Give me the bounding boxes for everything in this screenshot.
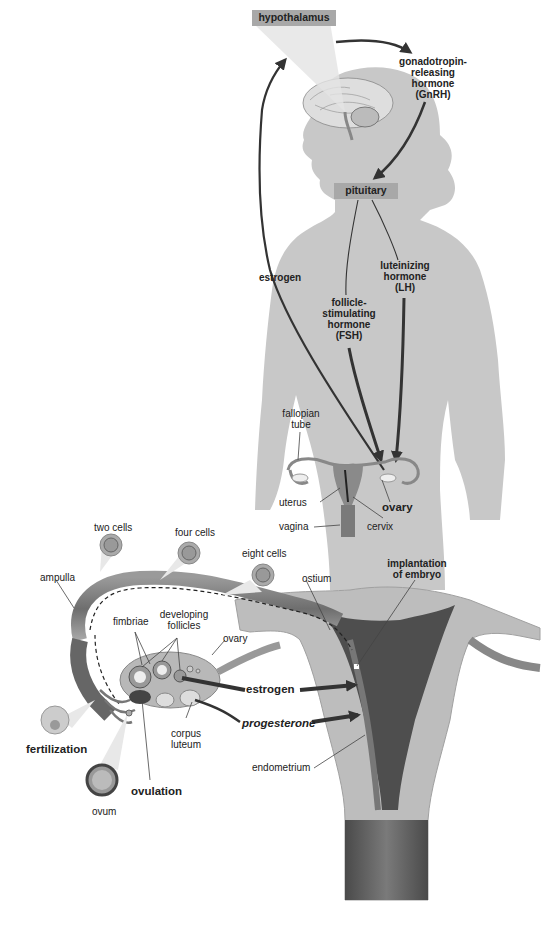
lh-label: luteinizing hormone (LH) xyxy=(370,260,440,293)
gnrh-label: gonadotropin- releasing hormone (GnRH) xyxy=(388,56,478,100)
hypothalamus-box: hypothalamus xyxy=(252,10,336,26)
four-cells-label: four cells xyxy=(175,527,215,538)
fimbriae-label: fimbriae xyxy=(113,616,149,627)
two-cells-label: two cells xyxy=(94,522,132,533)
corpus-luteum-label: corpus luteum xyxy=(166,728,206,750)
ovulation-label: ovulation xyxy=(131,786,182,797)
implantation-label: implantation of embryo xyxy=(380,558,454,580)
ovum-label: ovum xyxy=(92,806,116,817)
estrogen-top-label: estrogen xyxy=(259,272,301,283)
estrogen-bottom-label: estrogen xyxy=(246,684,295,695)
ovary-small-label: ovary xyxy=(382,502,413,513)
uterus-label: uterus xyxy=(279,497,307,508)
hypothalamus-label: hypothalamus xyxy=(258,11,329,23)
cervix-label: cervix xyxy=(367,521,393,532)
ostium-label: ostium xyxy=(302,573,331,584)
pituitary-label: pituitary xyxy=(345,184,386,196)
fsh-label: follicle- stimulating hormone (FSH) xyxy=(314,297,384,341)
vagina-label: vagina xyxy=(279,521,308,532)
ampulla-label: ampulla xyxy=(40,572,75,583)
ovary-detail-label: ovary xyxy=(223,633,247,644)
fertilization-label: fertilization xyxy=(26,744,87,755)
developing-follicles-label: developing follicles xyxy=(156,609,212,631)
endometrium-label: endometrium xyxy=(252,762,310,773)
reproductive-hormone-diagram: hypothalamus pituitary gonadotropin- rel… xyxy=(0,0,550,927)
fallopian-tube-label: fallopian tube xyxy=(276,408,326,430)
progesterone-label: progesterone xyxy=(242,718,316,729)
pituitary-box: pituitary xyxy=(334,183,398,199)
eight-cells-label: eight cells xyxy=(242,548,286,559)
